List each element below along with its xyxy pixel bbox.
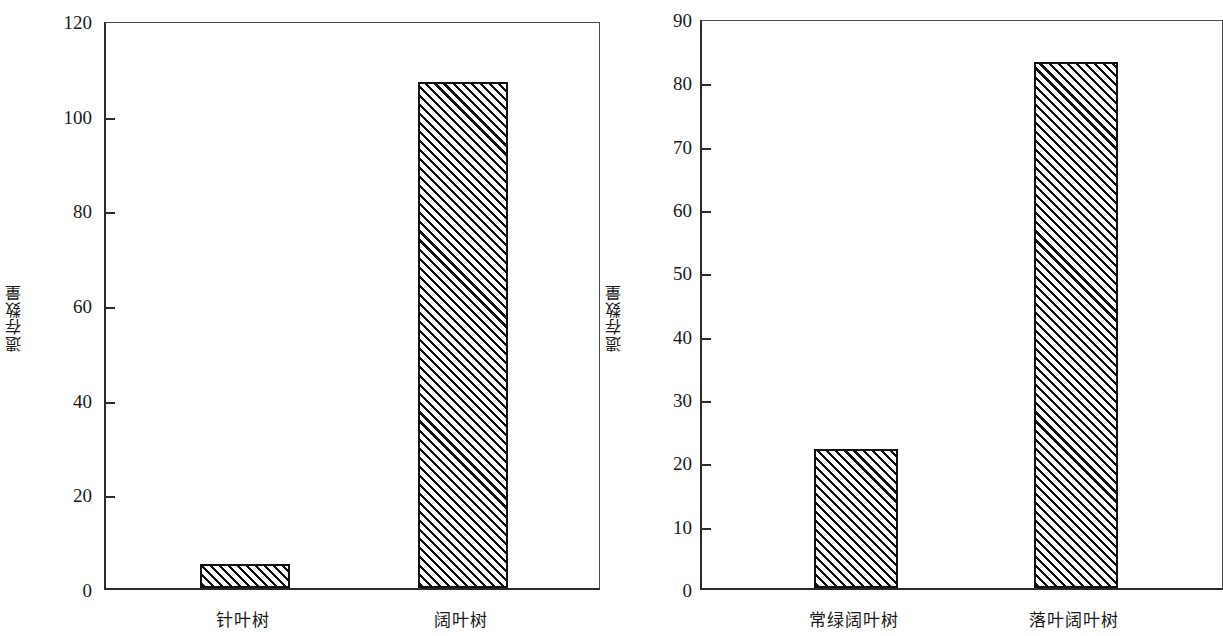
y-tick-mark xyxy=(702,148,711,150)
y-axis-tick-labels-left: 020406080100120 xyxy=(36,0,92,636)
y-tick-label: 60 xyxy=(673,201,692,220)
y-axis-label-right-text: 遗存数量 xyxy=(607,284,623,352)
y-tick-label: 10 xyxy=(673,517,692,536)
y-tick-label: 20 xyxy=(73,486,92,505)
y-tick-mark xyxy=(106,212,115,214)
y-tick-label: 60 xyxy=(73,297,92,316)
y-tick-label: 80 xyxy=(673,74,692,93)
x-category-label: 阔叶树 xyxy=(434,612,488,629)
dual-bar-chart-figure: 遗存数量 020406080100120 针叶树阔叶树 遗存数量 0102030… xyxy=(0,0,1223,636)
y-tick-mark xyxy=(702,528,711,530)
y-axis-label-left: 遗存数量 xyxy=(0,0,30,636)
bar-2 xyxy=(1034,62,1118,588)
y-tick-label: 30 xyxy=(673,391,692,410)
y-tick-label: 40 xyxy=(73,391,92,410)
y-tick-label: 50 xyxy=(673,264,692,283)
y-tick-mark xyxy=(702,464,711,466)
bar-1 xyxy=(814,449,898,588)
y-tick-mark xyxy=(702,211,711,213)
y-tick-mark xyxy=(702,401,711,403)
y-tick-label: 80 xyxy=(73,202,92,221)
bar-1 xyxy=(200,564,290,588)
bar-2 xyxy=(418,82,508,588)
y-tick-label: 90 xyxy=(673,11,692,30)
y-tick-label: 20 xyxy=(673,454,692,473)
x-category-label: 针叶树 xyxy=(216,612,270,629)
plot-area-left xyxy=(104,22,600,590)
y-axis-label-right: 遗存数量 xyxy=(600,0,630,636)
y-tick-label: 0 xyxy=(683,581,693,600)
y-tick-label: 120 xyxy=(64,13,93,32)
y-tick-label: 0 xyxy=(83,581,93,600)
y-tick-mark xyxy=(702,338,711,340)
plot-area-right xyxy=(700,20,1223,590)
y-tick-mark xyxy=(106,307,115,309)
y-tick-mark xyxy=(702,274,711,276)
chart-panel-left: 遗存数量 020406080100120 针叶树阔叶树 xyxy=(0,0,600,636)
y-tick-label: 70 xyxy=(673,137,692,156)
y-tick-mark xyxy=(106,118,115,120)
y-tick-label: 100 xyxy=(64,107,93,126)
y-axis-tick-labels-right: 0102030405060708090 xyxy=(636,0,692,636)
y-tick-mark xyxy=(702,84,711,86)
y-axis-label-left-text: 遗存数量 xyxy=(7,284,23,352)
y-tick-mark xyxy=(106,496,115,498)
y-tick-mark xyxy=(106,402,115,404)
x-category-label: 常绿阔叶树 xyxy=(809,612,899,629)
chart-panel-right: 遗存数量 0102030405060708090 常绿阔叶树落叶阔叶树 xyxy=(600,0,1223,636)
y-tick-label: 40 xyxy=(673,327,692,346)
x-category-label: 落叶阔叶树 xyxy=(1029,612,1119,629)
